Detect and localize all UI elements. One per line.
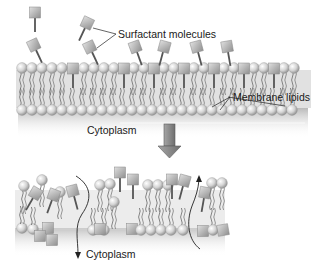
surfactant-molecules-label: Surfactant molecules: [118, 28, 216, 40]
disrupted-membrane-panel: Cytoplasm: [15, 167, 229, 260]
intact-membrane-panel: Surfactant molecules Membrane lipids Cyt…: [16, 7, 311, 138]
membrane-lipids-label: Membrane lipids: [233, 91, 310, 103]
cytoplasm-label-top: Cytoplasm: [87, 124, 137, 136]
membrane-disruption-diagram: Surfactant molecules Membrane lipids Cyt…: [0, 0, 327, 275]
cytoplasm-label-bottom: Cytoplasm: [86, 248, 136, 260]
